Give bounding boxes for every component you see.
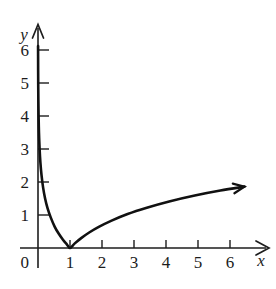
curve-path bbox=[38, 46, 244, 248]
y-tick-label-2: 2 bbox=[21, 173, 30, 192]
x-tick-label-3: 3 bbox=[130, 253, 139, 272]
function-graph: 1 2 3 4 5 6 1 2 3 4 5 6 0 y x bbox=[0, 0, 276, 289]
y-tick-label-3: 3 bbox=[21, 140, 30, 159]
x-tick-label-1: 1 bbox=[66, 253, 75, 272]
x-tick-label-6: 6 bbox=[226, 253, 235, 272]
x-axis-label: x bbox=[256, 251, 265, 270]
x-tick-label-2: 2 bbox=[98, 253, 107, 272]
y-tick-label-4: 4 bbox=[21, 107, 30, 126]
y-tick-label-5: 5 bbox=[21, 74, 30, 93]
y-tick-label-1: 1 bbox=[21, 206, 30, 225]
x-tick-label-4: 4 bbox=[162, 253, 171, 272]
x-tick-label-5: 5 bbox=[194, 253, 203, 272]
y-axis-label: y bbox=[18, 25, 28, 44]
figure-container: Asymptote: x = 0 1 2 3 4 5 6 1 2 3 bbox=[0, 0, 276, 289]
origin-label: 0 bbox=[21, 253, 30, 272]
